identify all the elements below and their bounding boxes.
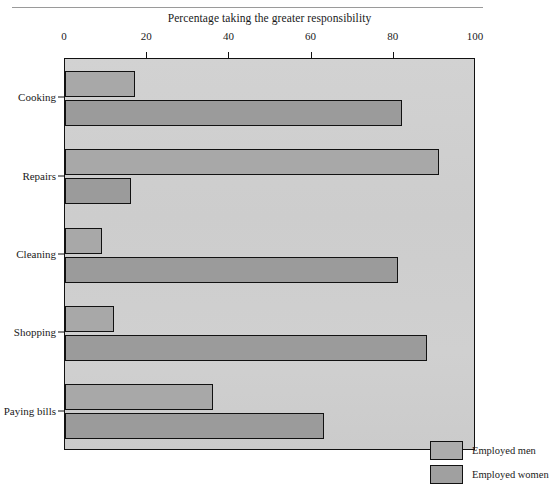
plot-area: Employed men Employed women xyxy=(64,58,475,450)
legend-item-employed-men: Employed men xyxy=(430,440,538,461)
top-divider-rule xyxy=(12,7,483,8)
y-category-label-repairs: Repairs xyxy=(22,170,56,182)
x-tick-label: 60 xyxy=(305,30,316,42)
bar-cooking-men xyxy=(65,71,135,97)
y-category-label-paying-bills: Paying bills xyxy=(4,405,56,417)
bar-shopping-men xyxy=(65,306,114,332)
bar-cleaning-men xyxy=(65,228,102,254)
y-category-label-cleaning: Cleaning xyxy=(16,248,56,260)
bar-repairs-women xyxy=(65,178,131,204)
x-axis xyxy=(64,52,475,53)
bar-paying-bills-women xyxy=(65,413,324,439)
legend-label-men: Employed men xyxy=(472,445,536,456)
legend-swatch-men-icon xyxy=(430,441,463,460)
bar-cleaning-women xyxy=(65,257,398,283)
legend-swatch-women-icon xyxy=(430,465,463,484)
y-axis-category-labels: CookingRepairsCleaningShoppingPaying bil… xyxy=(0,0,64,461)
bar-shopping-women xyxy=(65,335,427,361)
y-category-label-shopping: Shopping xyxy=(14,326,56,338)
bar-repairs-men xyxy=(65,149,439,175)
x-tick-label: 40 xyxy=(223,30,234,42)
chart-title: Percentage taking the greater responsibi… xyxy=(64,12,475,24)
legend-item-employed-women: Employed women xyxy=(430,464,538,485)
y-category-label-cooking: Cooking xyxy=(18,91,56,103)
bar-cooking-women xyxy=(65,100,402,126)
legend-label-women: Employed women xyxy=(472,469,549,480)
x-tick-label: 20 xyxy=(141,30,152,42)
chart-legend: Employed men Employed women xyxy=(430,440,538,488)
x-tick-label: 100 xyxy=(467,30,484,42)
x-tick-label: 80 xyxy=(387,30,398,42)
bar-paying-bills-men xyxy=(65,384,213,410)
